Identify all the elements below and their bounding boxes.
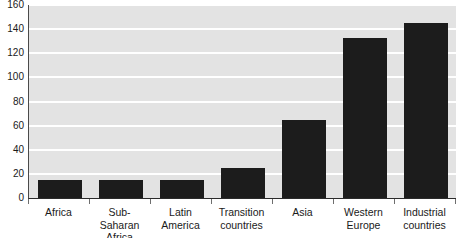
bar [99,180,143,198]
bar [38,180,82,198]
y-axis-tick-label: 80 [13,97,24,107]
bar [343,38,387,198]
x-axis-category-label: Latin America [150,206,211,231]
x-axis-category-label: Western Europe [333,206,394,231]
y-axis-tick-label: 100 [7,72,24,82]
y-axis: 020406080100120140160 [0,0,28,203]
bar [404,23,448,198]
y-axis-tick-label: 60 [13,121,24,131]
x-axis-tick-mark [333,199,334,204]
bar-series [29,5,456,198]
x-axis-category-label: Transition countries [211,206,272,231]
y-axis-tick-label: 20 [13,169,24,179]
bar [221,168,265,198]
plot-area [28,5,456,199]
bar [160,180,204,198]
y-axis-tick-label: 140 [7,24,24,34]
y-axis-tick-label: 160 [7,0,24,10]
x-axis-category-label: Africa [28,206,89,219]
y-axis-tick-label: 40 [13,145,24,155]
y-axis-tick-label: 0 [18,193,24,203]
x-axis-category-label: Industrial countries [394,206,455,231]
x-axis-tick-mark [272,199,273,204]
bar-chart: 020406080100120140160 AfricaSub-Saharan … [0,0,461,238]
x-axis-tick-mark [150,199,151,204]
x-axis-tick-mark [89,199,90,204]
x-axis: AfricaSub-Saharan AfricaLatin AmericaTra… [28,199,456,238]
x-axis-category-label: Asia [272,206,333,219]
x-axis-tick-mark [394,199,395,204]
x-axis-tick-mark [28,199,29,204]
x-axis-tick-mark [455,199,456,204]
x-axis-category-label: Sub-Saharan Africa [89,206,150,238]
bar [282,120,326,198]
x-axis-tick-mark [211,199,212,204]
y-axis-tick-label: 120 [7,48,24,58]
